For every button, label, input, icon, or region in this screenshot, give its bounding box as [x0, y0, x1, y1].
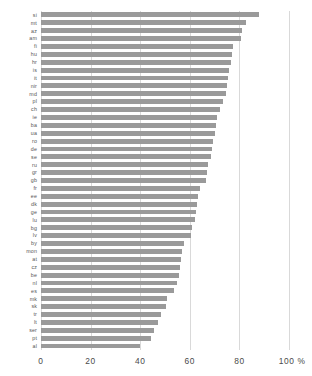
y-axis-label-nl: nl	[0, 280, 37, 286]
bar-row	[41, 194, 289, 199]
plot-area	[41, 11, 289, 350]
bar-ie	[41, 115, 217, 120]
bar-at	[41, 257, 181, 262]
y-axis-labels: simtazamfihuhrisitnirmdplchiebauarodeser…	[0, 11, 37, 350]
bar-ba	[41, 123, 216, 128]
y-axis-label-ro: ro	[0, 138, 37, 144]
y-axis-label-gb: gb	[0, 177, 37, 183]
y-axis-label-ua: ua	[0, 130, 37, 136]
bar-row	[41, 131, 289, 136]
bar-az	[41, 28, 242, 33]
y-axis-label-mon: mon	[0, 248, 37, 254]
bar-mk	[41, 296, 167, 301]
bar-row	[41, 210, 289, 215]
bar-hr	[41, 60, 231, 65]
bar-gb	[41, 178, 206, 183]
bar-row	[41, 344, 289, 349]
y-axis-label-be: be	[0, 272, 37, 278]
bar-row	[41, 123, 289, 128]
bar-al	[41, 344, 140, 349]
bar-be	[41, 273, 179, 278]
bar-lt	[41, 320, 158, 325]
bar-am	[41, 36, 241, 41]
bar-fi	[41, 44, 233, 49]
bar-ser	[41, 328, 154, 333]
bar-row	[41, 28, 289, 33]
bar-mon	[41, 249, 182, 254]
bar-row	[41, 76, 289, 81]
bar-by	[41, 241, 184, 246]
bar-pt	[41, 336, 151, 341]
bar-se	[41, 154, 211, 159]
bar-row	[41, 52, 289, 57]
y-axis-label-ee: ee	[0, 193, 37, 199]
bar-gr	[41, 170, 207, 175]
bar-row	[41, 265, 289, 270]
y-axis-label-ser: ser	[0, 327, 37, 333]
y-axis-label-az: az	[0, 28, 37, 34]
gridline-100	[289, 11, 290, 350]
bar-row	[41, 312, 289, 317]
x-axis-tick-80: 80	[234, 356, 245, 366]
bar-row	[41, 154, 289, 159]
y-axis-label-ie: ie	[0, 114, 37, 120]
y-axis-label-pl: pl	[0, 98, 37, 104]
y-axis-label-nir: nir	[0, 83, 37, 89]
y-axis-label-mk: mk	[0, 296, 37, 302]
y-axis-label-sk: sk	[0, 303, 37, 309]
y-axis-label-de: de	[0, 146, 37, 152]
bar-ee	[41, 194, 198, 199]
bar-nir	[41, 83, 227, 88]
y-axis-label-md: md	[0, 91, 37, 97]
bar-cz	[41, 265, 180, 270]
bar-row	[41, 273, 289, 278]
bar-row	[41, 36, 289, 41]
y-axis-label-am: am	[0, 35, 37, 41]
y-axis-label-lt: lt	[0, 319, 37, 325]
y-axis-label-ru: ru	[0, 162, 37, 168]
bar-row	[41, 12, 289, 17]
y-axis-label-hu: hu	[0, 51, 37, 57]
y-axis-label-dk: dk	[0, 201, 37, 207]
bar-row	[41, 186, 289, 191]
x-axis-tick-40: 40	[135, 356, 146, 366]
bar-row	[41, 170, 289, 175]
y-axis-label-tr: tr	[0, 311, 37, 317]
bar-row	[41, 91, 289, 96]
x-axis-labels: 020406080100 %	[41, 356, 289, 372]
bar-row	[41, 320, 289, 325]
bar-ru	[41, 162, 208, 167]
bar-row	[41, 281, 289, 286]
bar-row	[41, 328, 289, 333]
y-axis-label-ba: ba	[0, 122, 37, 128]
bar-row	[41, 249, 289, 254]
y-axis-label-al: al	[0, 343, 37, 349]
bar-row	[41, 44, 289, 49]
y-axis-label-mt: mt	[0, 20, 37, 26]
bar-nl	[41, 281, 177, 286]
bar-row	[41, 304, 289, 309]
bar-row	[41, 107, 289, 112]
bar-row	[41, 139, 289, 144]
bar-de	[41, 147, 212, 152]
bar-bg	[41, 225, 192, 230]
bar-tr	[41, 312, 161, 317]
y-axis-label-hr: hr	[0, 59, 37, 65]
bar-row	[41, 225, 289, 230]
y-axis-label-fi: fi	[0, 43, 37, 49]
bar-mt	[41, 20, 246, 25]
x-axis-tick-60: 60	[185, 356, 196, 366]
bar-it	[41, 76, 228, 81]
bar-dk	[41, 202, 197, 207]
bar-row	[41, 99, 289, 104]
bar-ge	[41, 210, 196, 215]
y-axis-label-gr: gr	[0, 169, 37, 175]
x-axis-tick-0: 0	[38, 356, 43, 366]
y-axis-label-bg: bg	[0, 225, 37, 231]
bar-row	[41, 288, 289, 293]
bar-row	[41, 83, 289, 88]
bar-es	[41, 288, 174, 293]
y-axis-label-by: by	[0, 240, 37, 246]
y-axis-label-lv: lv	[0, 232, 37, 238]
y-axis-label-es: es	[0, 288, 37, 294]
